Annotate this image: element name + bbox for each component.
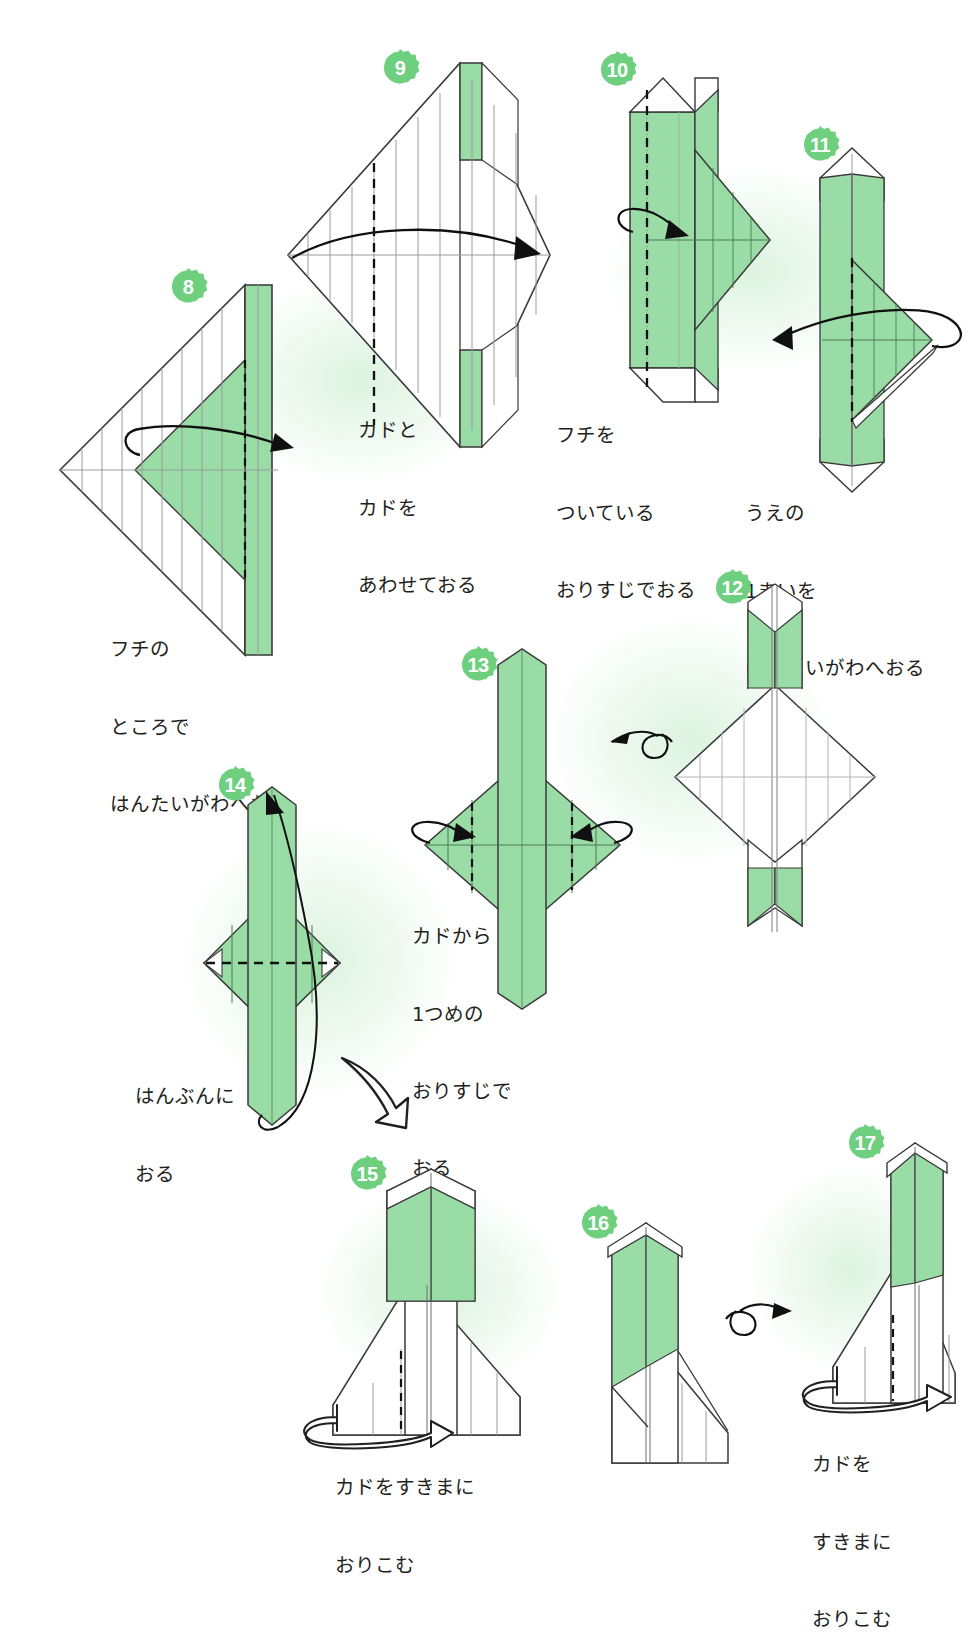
step-12-badge: 12 [712, 568, 752, 608]
step-9-caption: カドと カドを あわせておる [358, 367, 477, 650]
step-11-caption-line-1: うえの [745, 501, 925, 527]
step-9-number: 9 [380, 48, 420, 88]
step-15-badge: 15 [347, 1154, 387, 1194]
step-17-caption-line-2: すきまに [812, 1530, 892, 1556]
step-10-figure [585, 60, 785, 420]
step-17-caption: カドを すきまに おりこむ [812, 1401, 892, 1632]
step-8-caption-line-1: フチの [110, 637, 290, 663]
step-16-badge: 16 [578, 1203, 618, 1243]
step-11-badge: 11 [800, 125, 840, 165]
step-8-caption-line-2: ところで [110, 715, 290, 741]
step-13-number: 13 [458, 645, 498, 685]
step-8-number: 8 [168, 267, 208, 307]
step-17-number: 17 [845, 1123, 885, 1163]
step-17-figure [775, 1135, 978, 1435]
step-15-caption: カドをすきまに おりこむ [335, 1424, 475, 1630]
step-15-number: 15 [347, 1154, 387, 1194]
step-12-number: 12 [712, 568, 752, 608]
step-13-caption-line-1: カドから [412, 924, 512, 950]
step-14-caption-line-1: はんぶんに [135, 1084, 235, 1110]
step-12-figure [660, 580, 890, 940]
step-15-caption-line-2: おりこむ [335, 1553, 475, 1579]
step-10-caption-line-1: フチを [556, 423, 696, 449]
step-16-figure [560, 1215, 760, 1475]
step-14-badge: 14 [215, 765, 255, 805]
step-16-number: 16 [578, 1203, 618, 1243]
step-17-caption-line-1: カドを [812, 1452, 892, 1478]
step-14-caption: はんぶんに おる [135, 1033, 235, 1239]
step-9-caption-line-1: カドと [358, 418, 477, 444]
step-15-figure [285, 1165, 545, 1465]
flow-arrow-step14-to-step15 [330, 1040, 440, 1150]
step-9-caption-line-2: カドを [358, 496, 477, 522]
step-9-badge: 9 [380, 48, 420, 88]
step-17-caption-line-3: おりこむ [812, 1607, 892, 1632]
step-13-caption-line-2: 1つめの [412, 1002, 512, 1028]
step-13-badge: 13 [458, 645, 498, 685]
step-15-caption-line-1: カドをすきまに [335, 1475, 475, 1501]
step-17-badge: 17 [845, 1123, 885, 1163]
step-10-badge: 10 [597, 50, 637, 90]
step-11-number: 11 [800, 125, 840, 165]
step-11-figure [800, 140, 978, 500]
step-10-number: 10 [597, 50, 637, 90]
step-8-badge: 8 [168, 267, 208, 307]
step-9-caption-line-3: あわせておる [358, 573, 477, 599]
step-14-number: 14 [215, 765, 255, 805]
step-10-caption-line-2: ついている [556, 501, 696, 527]
step-14-caption-line-2: おる [135, 1162, 235, 1188]
